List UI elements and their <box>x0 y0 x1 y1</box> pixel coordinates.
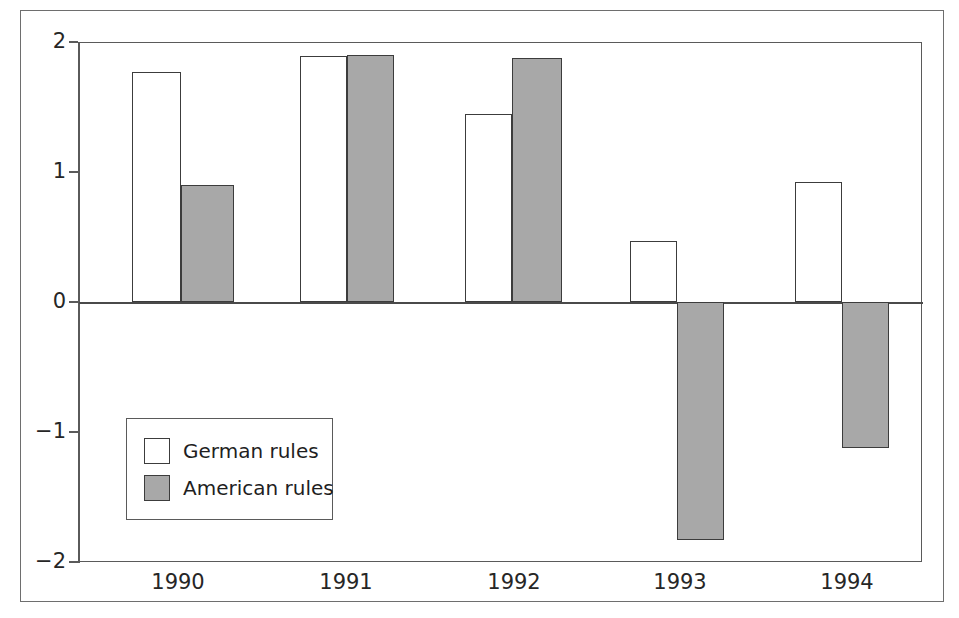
german-swatch-icon <box>144 438 170 464</box>
x-axis-tick-label-1991: 1991 <box>286 572 406 593</box>
y-axis-tick-mark-0 <box>69 301 78 303</box>
y-axis-tick-label-minus-1: −1 <box>20 421 66 442</box>
bar-german-1993[interactable] <box>630 241 677 302</box>
bar-german-1992[interactable] <box>465 114 512 303</box>
legend-label-american: American rules <box>183 478 334 498</box>
zero-baseline <box>79 302 923 304</box>
bar-german-1990[interactable] <box>132 72 181 302</box>
y-axis-tick-label-0: 0 <box>20 291 66 312</box>
figure: 2 1 0 −1 −2 <box>0 0 959 618</box>
bar-american-1993[interactable] <box>677 302 724 540</box>
x-axis-tick-label-1994: 1994 <box>787 572 907 593</box>
x-axis-tick-label-1993: 1993 <box>620 572 740 593</box>
legend-item-american: American rules <box>144 475 334 501</box>
x-axis-tick-label-1990: 1990 <box>118 572 238 593</box>
bar-american-1994[interactable] <box>842 302 889 448</box>
y-axis-tick-mark-minus-2 <box>69 561 78 563</box>
bar-german-1991[interactable] <box>300 56 347 302</box>
y-axis-tick-mark-2 <box>69 41 78 43</box>
bar-american-1990[interactable] <box>181 185 234 302</box>
y-axis-tick-label-2: 2 <box>20 31 66 52</box>
bar-american-1992[interactable] <box>512 58 562 302</box>
legend: German rules American rules <box>126 418 333 520</box>
y-axis-tick-label-minus-2: −2 <box>20 551 66 572</box>
x-axis-tick-label-1992: 1992 <box>454 572 574 593</box>
legend-item-german: German rules <box>144 438 319 464</box>
y-axis-tick-label-1: 1 <box>20 161 66 182</box>
bar-german-1994[interactable] <box>795 182 842 302</box>
legend-label-german: German rules <box>183 441 319 461</box>
y-axis-tick-mark-minus-1 <box>69 431 78 433</box>
american-swatch-icon <box>144 475 170 501</box>
y-axis-tick-mark-1 <box>69 171 78 173</box>
bar-american-1991[interactable] <box>347 55 394 302</box>
